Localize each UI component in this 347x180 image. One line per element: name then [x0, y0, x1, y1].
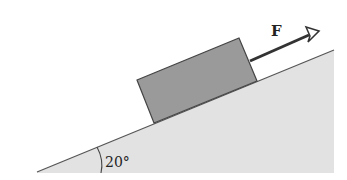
incline-diagram: F 20°: [0, 0, 347, 180]
angle-label: 20°: [105, 154, 130, 170]
force-label: F: [271, 22, 282, 40]
force-arrow: [250, 27, 319, 61]
